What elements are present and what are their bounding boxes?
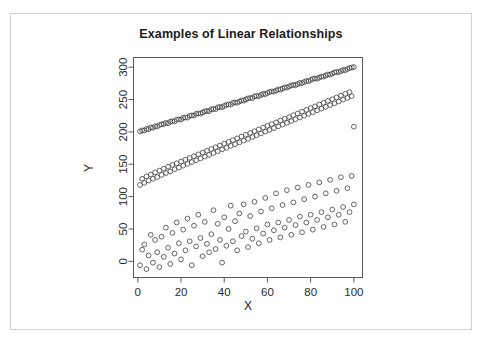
data-point bbox=[310, 227, 315, 232]
data-point bbox=[161, 254, 166, 259]
data-point bbox=[215, 221, 220, 226]
data-point bbox=[321, 225, 326, 230]
y-tick-label: 150 bbox=[118, 155, 130, 174]
data-point bbox=[241, 202, 246, 207]
data-point bbox=[256, 241, 261, 246]
y-tick-label: 0 bbox=[118, 258, 130, 264]
data-point bbox=[140, 247, 145, 252]
data-point bbox=[151, 260, 156, 265]
data-point bbox=[200, 254, 205, 259]
x-tick-label: 60 bbox=[261, 286, 274, 298]
data-point bbox=[274, 191, 279, 196]
data-point bbox=[315, 218, 320, 223]
data-point bbox=[302, 197, 307, 202]
data-point bbox=[284, 188, 289, 193]
data-point bbox=[157, 265, 162, 270]
data-point bbox=[293, 223, 298, 228]
x-axis-tick-labels: 020406080100 bbox=[135, 286, 364, 298]
data-point bbox=[261, 231, 266, 236]
data-point bbox=[330, 207, 335, 212]
data-point bbox=[153, 238, 158, 243]
data-point bbox=[347, 210, 352, 215]
data-point bbox=[159, 234, 164, 239]
axes-group: 050100150200250300 020406080100 Y X bbox=[82, 58, 363, 314]
data-point bbox=[181, 227, 186, 232]
data-point bbox=[272, 228, 277, 233]
data-point bbox=[269, 206, 274, 211]
y-axis-tick-labels: 050100150200250300 bbox=[118, 58, 130, 265]
y-axis-title: Y bbox=[82, 164, 96, 172]
data-point bbox=[317, 180, 322, 185]
data-point bbox=[349, 94, 354, 99]
data-point bbox=[332, 222, 337, 227]
data-point bbox=[239, 234, 244, 239]
data-point bbox=[172, 251, 177, 256]
data-point bbox=[349, 174, 354, 179]
plot-svg: 050100150200250300 020406080100 Y X bbox=[0, 0, 482, 342]
data-point bbox=[326, 215, 331, 220]
data-point bbox=[248, 214, 253, 219]
data-point bbox=[295, 185, 300, 190]
data-point bbox=[226, 227, 231, 232]
data-point bbox=[300, 230, 305, 235]
data-point bbox=[339, 175, 344, 180]
data-point bbox=[246, 245, 251, 250]
data-point bbox=[222, 215, 227, 220]
data-point bbox=[282, 225, 287, 230]
data-point bbox=[233, 219, 238, 224]
data-point bbox=[170, 230, 175, 235]
data-point bbox=[183, 248, 188, 253]
data-point bbox=[267, 238, 272, 243]
data-point bbox=[263, 196, 268, 201]
data-series bbox=[138, 90, 357, 188]
data-point bbox=[164, 225, 169, 230]
data-point bbox=[228, 203, 233, 208]
data-series bbox=[138, 65, 357, 134]
data-point bbox=[341, 205, 346, 210]
data-point bbox=[224, 243, 229, 248]
data-point bbox=[313, 194, 318, 199]
data-point bbox=[336, 212, 341, 217]
data-point bbox=[192, 223, 197, 228]
data-point bbox=[343, 219, 348, 224]
data-point bbox=[146, 253, 151, 258]
x-tick-label: 40 bbox=[218, 286, 231, 298]
data-point bbox=[185, 216, 190, 221]
data-point bbox=[351, 202, 356, 207]
data-point bbox=[334, 188, 339, 193]
data-point bbox=[276, 220, 281, 225]
x-axis-title: X bbox=[244, 299, 252, 313]
data-point bbox=[259, 209, 264, 214]
data-point bbox=[207, 250, 212, 255]
y-tick-label: 50 bbox=[118, 223, 130, 236]
data-point bbox=[351, 124, 356, 129]
data-point bbox=[328, 177, 333, 182]
data-series-group bbox=[138, 65, 357, 272]
x-tick-label: 80 bbox=[304, 286, 317, 298]
data-point bbox=[291, 200, 296, 205]
data-point bbox=[194, 244, 199, 249]
data-point bbox=[235, 248, 240, 253]
data-point bbox=[278, 235, 283, 240]
data-point bbox=[211, 208, 216, 213]
data-point bbox=[209, 232, 214, 237]
data-point bbox=[287, 218, 292, 223]
data-point bbox=[187, 239, 192, 244]
data-point bbox=[265, 222, 270, 227]
data-point bbox=[319, 210, 324, 215]
data-point bbox=[304, 220, 309, 225]
data-point bbox=[148, 232, 153, 237]
x-tick-label: 100 bbox=[344, 286, 363, 298]
data-point bbox=[297, 214, 302, 219]
data-point bbox=[138, 263, 143, 268]
data-point bbox=[250, 236, 255, 241]
data-series bbox=[138, 174, 357, 272]
data-point bbox=[155, 250, 160, 255]
data-point bbox=[142, 242, 147, 247]
data-point bbox=[196, 212, 201, 217]
data-point bbox=[252, 199, 257, 204]
y-tick-label: 250 bbox=[118, 90, 130, 109]
data-point bbox=[198, 236, 203, 241]
data-point bbox=[144, 267, 149, 272]
x-tick-label: 20 bbox=[175, 286, 188, 298]
